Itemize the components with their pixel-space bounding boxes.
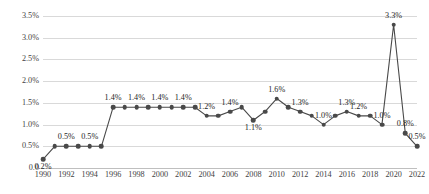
x-axis-tick-label: 2012 [292,170,308,179]
data-point-marker [298,109,303,114]
data-point-marker [380,122,385,127]
data-point-label: 1.4% [128,94,145,102]
x-axis-tick-label: 2016 [339,170,355,179]
x-axis-tick-label: 1998 [128,170,144,179]
data-point-marker [169,105,174,110]
data-point-marker [251,118,256,123]
data-point-label: 1.4% [105,94,122,102]
x-axis-tick-label: 2018 [362,170,378,179]
data-point-marker [134,105,139,110]
data-point-marker [228,109,233,114]
x-axis-tick-label: 2020 [385,170,401,179]
data-point-marker [345,109,350,114]
x-axis-tick-label: 1996 [105,170,121,179]
data-point-marker [368,114,373,119]
x-axis-tick-label: 1994 [82,170,98,179]
data-point-label: 1.4% [221,99,238,107]
data-point-marker [111,105,116,110]
data-point-label: 1.4% [151,94,168,102]
x-axis-tick-label: 1990 [35,170,51,179]
data-point-marker [87,144,92,149]
y-axis-tick-label: 2.5% [0,55,39,63]
y-axis-tick-label: 2.0% [0,77,39,85]
data-point-marker [403,131,408,136]
y-axis-tick-label: 0.0 [0,164,39,172]
y-axis-tick-label: 0.5% [0,142,39,150]
x-axis-tick-label: 2002 [175,170,191,179]
data-point-marker [356,114,361,119]
data-point-marker [321,122,326,127]
data-point-label: 0.5% [408,133,425,141]
x-axis-tick-label: 2006 [222,170,238,179]
data-point-marker [310,114,315,119]
data-point-label: 1.0% [315,112,332,120]
data-point-label: 1.0% [373,112,390,120]
x-axis-tick-label: 2022 [409,170,425,179]
data-point-marker [158,105,163,110]
line-chart: 3.5%3.0%2.5%2.0%1.5%1.0%0.5%0.0 0.2%0.5%… [0,0,429,194]
y-axis-labels: 3.5%3.0%2.5%2.0%1.5%1.0%0.5%0.0 [0,16,39,168]
x-axis-tick-label: 2000 [152,170,168,179]
data-point-marker [52,144,57,149]
data-point-marker [99,144,104,149]
y-axis-tick-label: 1.5% [0,99,39,107]
data-point-marker [181,105,186,110]
data-point-label: 0.8% [397,120,414,128]
data-point-label: 1.4% [175,94,192,102]
data-point-label: 1.6% [268,86,285,94]
data-point-label: 0.5% [58,133,75,141]
data-point-label: 3.3% [385,12,402,20]
data-point-marker [263,109,268,114]
x-axis-tick-label: 1992 [58,170,74,179]
data-point-label: 0.5% [81,133,98,141]
x-axis-tick-label: 2014 [315,170,331,179]
data-point-label: 1.2% [198,103,215,111]
data-point-marker [76,144,81,149]
data-point-marker [274,96,279,101]
x-axis-labels: 1990199219941996199820002002200420062008… [43,168,417,192]
x-axis-tick-label: 2004 [198,170,214,179]
data-point-marker [64,144,69,149]
data-point-marker [204,114,209,119]
data-point-marker [415,144,420,149]
data-point-marker [193,105,198,110]
data-point-marker [391,22,396,27]
data-point-label: 1.1% [245,124,262,132]
data-point-marker [286,105,291,110]
data-point-marker [333,114,338,119]
y-axis-tick-label: 3.5% [0,12,39,20]
x-axis-tick-label: 2010 [269,170,285,179]
data-point-marker [123,105,128,110]
data-point-label: 1.2% [350,103,367,111]
y-axis-tick-label: 1.0% [0,121,39,129]
data-point-label: 1.3% [292,99,309,107]
data-point-marker [216,114,221,119]
x-axis-tick-label: 2008 [245,170,261,179]
plot-area: 0.2%0.5%0.5%1.4%1.4%1.4%1.4%1.2%1.4%1.1%… [43,16,417,168]
data-point-marker [41,157,46,162]
data-point-marker [239,105,244,110]
data-point-marker [146,105,151,110]
y-axis-tick-label: 3.0% [0,34,39,42]
